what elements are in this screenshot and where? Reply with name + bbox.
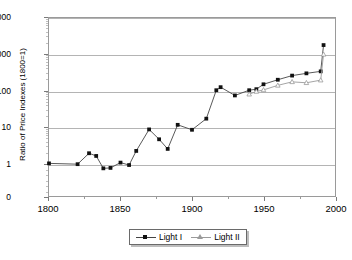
data-point-marker-square [276, 78, 280, 82]
legend-item-light-ii[interactable]: Light II [191, 232, 240, 242]
data-point-marker-square [94, 154, 98, 158]
x-axis-label: 1800 [18, 203, 78, 214]
data-point-marker-square [290, 74, 294, 78]
x-axis-label: 2000 [306, 203, 352, 214]
x-axis-tick [336, 197, 337, 201]
series-light-ii [247, 52, 326, 96]
x-axis-tick [192, 197, 193, 201]
price-index-line-chart: Ratio of Price Indexes (1800=1) 10000100… [0, 0, 352, 260]
series-line [249, 54, 323, 94]
x-axis-minor-tick [228, 197, 229, 199]
data-point-marker-square [233, 94, 237, 98]
legend-item-light-i[interactable]: Light I [136, 232, 182, 242]
data-point-marker-square [190, 128, 194, 132]
data-point-marker-square [76, 162, 80, 166]
x-axis-tick [264, 197, 265, 201]
data-point-marker-square [214, 88, 218, 92]
legend-marker-open-triangle-icon [191, 233, 211, 241]
x-axis-label: 1850 [90, 203, 150, 214]
y-axis-label: 10 [0, 123, 11, 132]
y-axis-label: 1 [0, 160, 11, 169]
data-point-marker-square [134, 149, 138, 153]
data-point-marker-square [147, 128, 151, 132]
data-point-marker-square [109, 166, 113, 170]
data-point-marker-square [87, 151, 91, 155]
chart-legend: Light I Light II [129, 229, 247, 245]
y-axis-label: 10000 [0, 13, 11, 22]
data-point-marker-square [166, 147, 170, 151]
data-point-marker-square [176, 123, 180, 127]
legend-label-light-i: Light I [159, 232, 182, 242]
x-axis-minor-tick [300, 197, 301, 199]
data-point-marker-square [322, 43, 326, 47]
data-point-marker-square [157, 137, 161, 141]
data-point-marker-square [204, 117, 208, 121]
data-point-marker-triangle [321, 52, 326, 56]
y-axis-title: Ratio of Price Indexes (1800=1) [18, 20, 27, 190]
x-axis-minor-tick [84, 197, 85, 199]
data-point-marker-square [262, 82, 266, 86]
data-series-layer [49, 18, 335, 196]
series-light-i [47, 43, 325, 170]
data-point-marker-square [119, 161, 123, 165]
y-axis-label: 1000 [0, 50, 11, 59]
series-line [49, 45, 324, 168]
x-axis-label: 1950 [234, 203, 294, 214]
data-point-marker-square [305, 71, 309, 75]
plot-area [48, 17, 336, 197]
data-point-marker-triangle [318, 78, 323, 82]
x-axis-label: 1900 [162, 203, 222, 214]
data-point-marker-square [127, 163, 131, 167]
data-point-marker-square [47, 161, 51, 165]
y-axis-label: 0 [0, 193, 11, 202]
x-axis-tick [120, 197, 121, 201]
data-point-marker-square [219, 85, 223, 89]
legend-label-light-ii: Light II [214, 232, 240, 242]
y-axis-label: 100 [0, 87, 11, 96]
data-point-marker-square [101, 166, 105, 170]
x-axis-minor-tick [156, 197, 157, 199]
x-axis-tick [48, 197, 49, 201]
legend-marker-filled-square-icon [136, 233, 156, 241]
